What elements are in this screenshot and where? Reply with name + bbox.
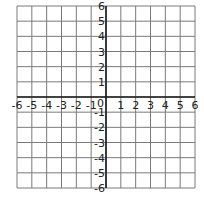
y-tick-label: 4 (98, 30, 105, 43)
x-tick-label: 4 (162, 99, 169, 112)
y-tick-label: 1 (98, 76, 105, 89)
x-tick-label: 5 (177, 99, 184, 112)
x-tick-label: 2 (132, 99, 139, 112)
x-tick-label: 3 (147, 99, 154, 112)
x-tick-label: -6 (12, 99, 23, 112)
y-tick-label: -2 (94, 121, 105, 134)
y-tick-label: -5 (94, 167, 105, 180)
x-tick-label: -3 (56, 99, 67, 112)
origin-label: 0 (97, 97, 104, 110)
y-tick-label: -3 (94, 137, 105, 150)
x-tick-label: 6 (192, 99, 199, 112)
y-tick-label: -6 (94, 182, 105, 195)
axes (17, 6, 195, 188)
y-tick-label: 2 (98, 61, 105, 74)
y-tick-label: -4 (94, 152, 105, 165)
x-tick-label: -2 (71, 99, 82, 112)
x-tick-label: -4 (41, 99, 52, 112)
x-tick-label: 1 (117, 99, 124, 112)
x-tick-label: -5 (26, 99, 37, 112)
y-tick-label: 3 (98, 46, 105, 59)
y-tick-label: 5 (98, 15, 105, 28)
y-tick-label: 6 (98, 0, 105, 13)
coordinate-plane: -6-5-4-3-2-1123456654321-1-2-3-4-5-60 (0, 0, 204, 205)
